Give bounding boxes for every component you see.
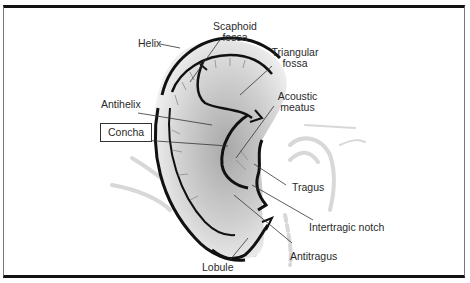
label-intertragic-notch: Intertragic notch bbox=[309, 222, 384, 233]
label-acoustic-meatus-line2: meatus bbox=[270, 102, 325, 113]
leader-helix bbox=[160, 44, 180, 48]
label-tragus: Tragus bbox=[292, 182, 324, 193]
label-antitragus: Antitragus bbox=[290, 251, 337, 262]
label-triangular-fossa-line2: fossa bbox=[265, 58, 325, 69]
label-antihelix: Antihelix bbox=[101, 99, 141, 110]
label-acoustic-meatus: Acoustic meatus bbox=[270, 91, 325, 113]
label-helix: Helix bbox=[138, 38, 161, 49]
label-lobule: Lobule bbox=[202, 262, 234, 273]
label-triangular-fossa: Triangular fossa bbox=[265, 47, 325, 69]
label-concha-highlighted: Concha bbox=[100, 123, 152, 142]
label-scaphoid-fossa: Scaphoid fossa bbox=[205, 21, 265, 43]
label-scaphoid-fossa-line2: fossa bbox=[205, 32, 265, 43]
